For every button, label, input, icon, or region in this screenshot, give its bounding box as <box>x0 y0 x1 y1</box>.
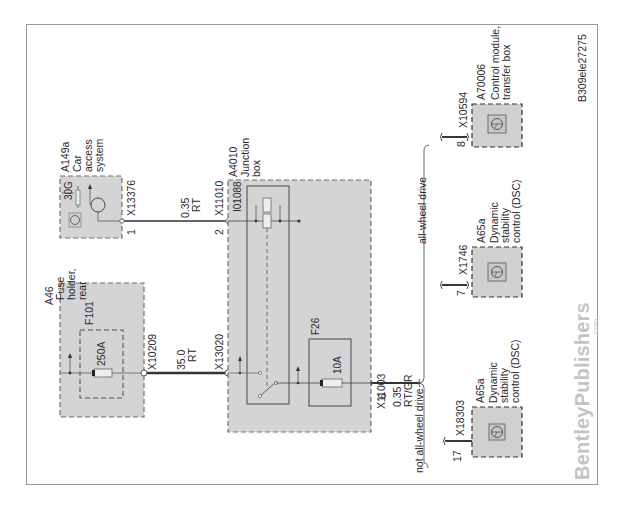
junction-box <box>228 180 371 432</box>
wire-color-rt: RT <box>187 348 198 362</box>
terminal-30g: 30G <box>63 181 74 200</box>
component-name-a4010-l2: box <box>251 160 262 177</box>
component-name-a65a-1-l3: control (DSC) <box>510 339 521 403</box>
relay-resistor-icon <box>263 198 271 212</box>
pin-2: 2 <box>214 229 225 235</box>
pin-6: 6 <box>377 393 388 399</box>
component-id-a70006: A70006 <box>476 64 487 100</box>
fuse-f101-icon <box>94 369 112 377</box>
connector-x1746: X1746 <box>458 245 469 275</box>
variant-not-awd-label: not all-wheel drive <box>414 388 425 473</box>
connector-x13376: X13376 <box>126 180 137 216</box>
fuse-f26-rating: 10A <box>332 356 343 374</box>
component-id-a65a-1: A65a <box>475 378 486 403</box>
fuse-f101-rating: 250A <box>96 341 107 366</box>
connector-x10209-pin <box>141 370 147 376</box>
fuse-f26-icon <box>322 379 342 387</box>
relay-coil-icon <box>263 214 271 228</box>
fuse-f26-label: F26 <box>310 318 321 335</box>
wire-color-rt-2: RT <box>191 198 202 212</box>
component-name-a70006-l2: transfer box <box>501 45 512 100</box>
connector-x10594: X10594 <box>458 92 469 128</box>
relay-label: I01088 <box>232 181 243 212</box>
component-id-a149a: A149a <box>60 142 71 172</box>
component-name-a65a-2-l3: control (DSC) <box>511 179 522 243</box>
connector-x13020: X13020 <box>214 334 225 370</box>
connector-x18303: X18303 <box>455 400 466 436</box>
pin-17: 17 <box>452 450 463 462</box>
connector-x11010: X11010 <box>214 181 225 216</box>
component-id-a65a-2: A65a <box>476 218 487 243</box>
component-name-a149a-l3: system <box>94 139 105 172</box>
variant-awd-label: all-wheel drive <box>417 177 428 244</box>
pin-1: 1 <box>126 229 137 235</box>
connector-x10209: X10209 <box>147 334 158 370</box>
figure-id: B309ele27275 <box>577 34 588 102</box>
pin-7: 7 <box>456 290 467 296</box>
component-id-a4010: A4010 <box>228 147 239 177</box>
logo-suffix: .com <box>591 319 600 336</box>
wiring-graphics <box>0 0 624 515</box>
fuse-f101-label: F101 <box>84 301 95 325</box>
pin-8: 8 <box>456 141 467 147</box>
component-name-a46-l3: rear <box>77 281 88 300</box>
connector-x11003: X11003 <box>376 374 387 409</box>
